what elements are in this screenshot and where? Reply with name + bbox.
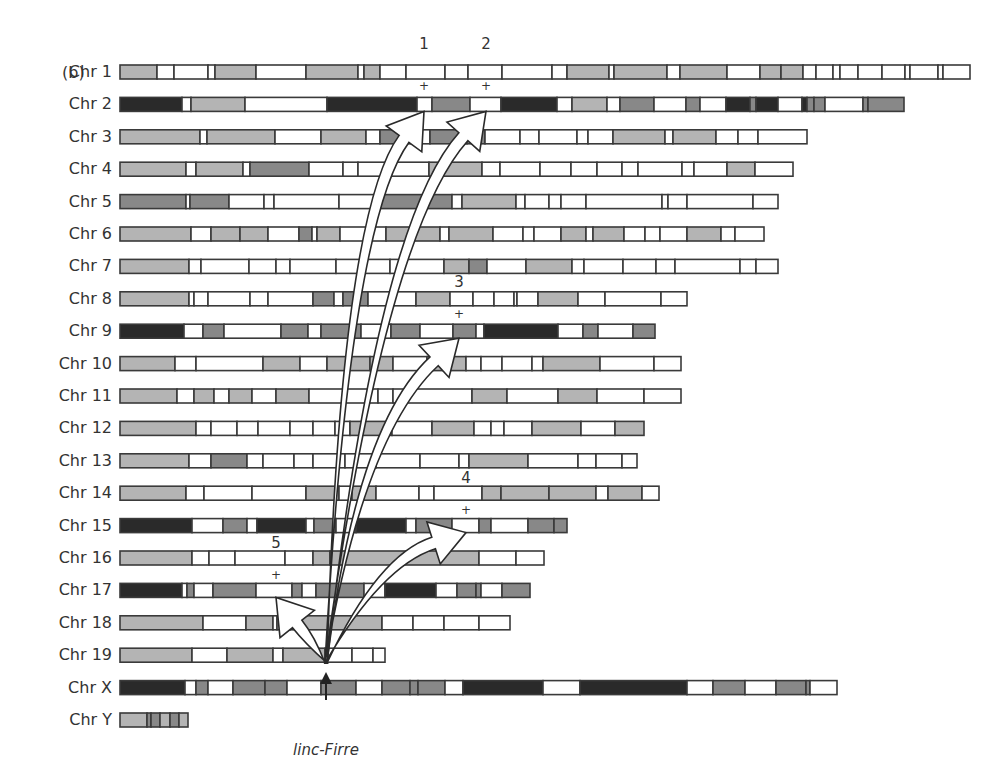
chromosome-band	[667, 65, 680, 79]
chromosome-band	[470, 97, 501, 111]
chromosome-band	[501, 97, 557, 111]
chromosome-band	[543, 681, 580, 695]
chromosome-band	[273, 648, 283, 662]
chromosome-band	[247, 454, 263, 468]
chromosome-row: Chr 9	[69, 321, 655, 340]
chromosome-label: Chr 4	[69, 159, 112, 178]
chromosome-band	[175, 357, 196, 371]
chromosome-band	[274, 195, 339, 209]
chromosome-label: Chr 1	[69, 62, 112, 81]
chromosome-band	[179, 713, 188, 727]
chromosome-band	[170, 713, 179, 727]
chromosome-label: Chr 9	[69, 321, 112, 340]
chromosome-band	[213, 583, 256, 597]
chromosome-band	[257, 519, 306, 533]
chromosome-band	[501, 486, 549, 500]
chromosome-band	[687, 681, 713, 695]
chromosome-band	[321, 130, 366, 144]
chromosome-band	[391, 324, 420, 338]
chromosome-band	[633, 324, 655, 338]
chromosome-band	[285, 551, 313, 565]
chromosome-band	[207, 130, 275, 144]
chromosome-band	[356, 681, 382, 695]
chromosome-band	[229, 195, 264, 209]
genome-interaction-diagram: (b) Chr 1Chr 2Chr 3Chr 4Chr 5Chr 6Chr 7C…	[0, 0, 1004, 780]
chromosome-band	[713, 681, 745, 695]
chromosome-band	[157, 65, 174, 79]
chromosome-band	[473, 292, 494, 306]
chromosome-band	[201, 259, 249, 273]
chromosome-band	[120, 259, 189, 273]
chromosome-ideograms: Chr 1Chr 2Chr 3Chr 4Chr 5Chr 6Chr 7Chr 8…	[59, 62, 970, 729]
chromosome-band	[250, 292, 268, 306]
chromosome-band	[534, 227, 561, 241]
chromosome-band	[215, 65, 256, 79]
chromosome-band	[721, 227, 735, 241]
chromosome-band	[638, 162, 682, 176]
chromosome-band	[668, 195, 687, 209]
chromosome-band	[302, 583, 316, 597]
chromosome-band	[479, 551, 516, 565]
chromosome-band	[245, 97, 327, 111]
chromosome-band	[810, 681, 837, 695]
chromosome-band	[538, 292, 578, 306]
chromosome-band	[491, 421, 504, 435]
chromosome-band	[758, 130, 807, 144]
chromosome-band	[294, 454, 313, 468]
chromosome-band	[482, 486, 501, 500]
chromosome-band	[436, 583, 457, 597]
chromosome-band	[366, 130, 380, 144]
chromosome-band	[468, 65, 502, 79]
chromosome-band	[740, 259, 756, 273]
chromosome-band	[673, 130, 716, 144]
chromosome-band	[276, 389, 309, 403]
chromosome-band	[572, 259, 584, 273]
chromosome-band	[275, 130, 321, 144]
chromosome-band	[687, 227, 721, 241]
chromosome-band	[290, 259, 336, 273]
chromosome-band	[120, 227, 191, 241]
chromosome-label: Chr 10	[59, 354, 112, 373]
chromosome-band	[376, 454, 420, 468]
chromosome-band	[196, 681, 208, 695]
chromosome-row: Chr 7	[69, 256, 778, 275]
chromosome-band	[586, 195, 662, 209]
chromosome-band	[596, 454, 622, 468]
chromosome-band	[406, 519, 416, 533]
chromosome-band	[247, 519, 257, 533]
chromosome-band	[249, 259, 276, 273]
chromosome-band	[120, 454, 189, 468]
chromosome-band	[445, 681, 463, 695]
chromosome-band	[620, 97, 654, 111]
chromosome-row: Chr 1	[69, 62, 970, 81]
chromosome-band	[240, 227, 268, 241]
chromosome-band	[654, 97, 686, 111]
chromosome-band	[571, 162, 597, 176]
chromosome-band	[517, 292, 538, 306]
chromosome-band	[120, 357, 175, 371]
chromosome-band	[457, 583, 476, 597]
chromosome-band	[623, 259, 656, 273]
chromosome-label: Chr 6	[69, 224, 112, 243]
chromosome-band	[120, 389, 177, 403]
chromosome-band	[745, 681, 776, 695]
chromosome-band	[608, 486, 642, 500]
chromosome-band	[306, 519, 314, 533]
chromosome-band	[525, 195, 549, 209]
chromosome-band	[466, 357, 481, 371]
chromosome-band	[469, 259, 487, 273]
chromosome-band	[120, 648, 192, 662]
chromosome-band	[600, 357, 654, 371]
chromosome-band	[194, 583, 213, 597]
chromosome-band	[528, 454, 578, 468]
chromosome-band	[778, 97, 802, 111]
chromosome-band	[474, 421, 491, 435]
chromosome-label: Chr 18	[59, 613, 112, 632]
chromosome-band	[120, 195, 186, 209]
chromosome-band	[327, 97, 417, 111]
chromosome-label: Chr 15	[59, 516, 112, 535]
chromosome-band	[392, 421, 432, 435]
chromosome-band	[476, 324, 484, 338]
chromosome-band	[735, 227, 764, 241]
chromosome-band	[258, 421, 290, 435]
